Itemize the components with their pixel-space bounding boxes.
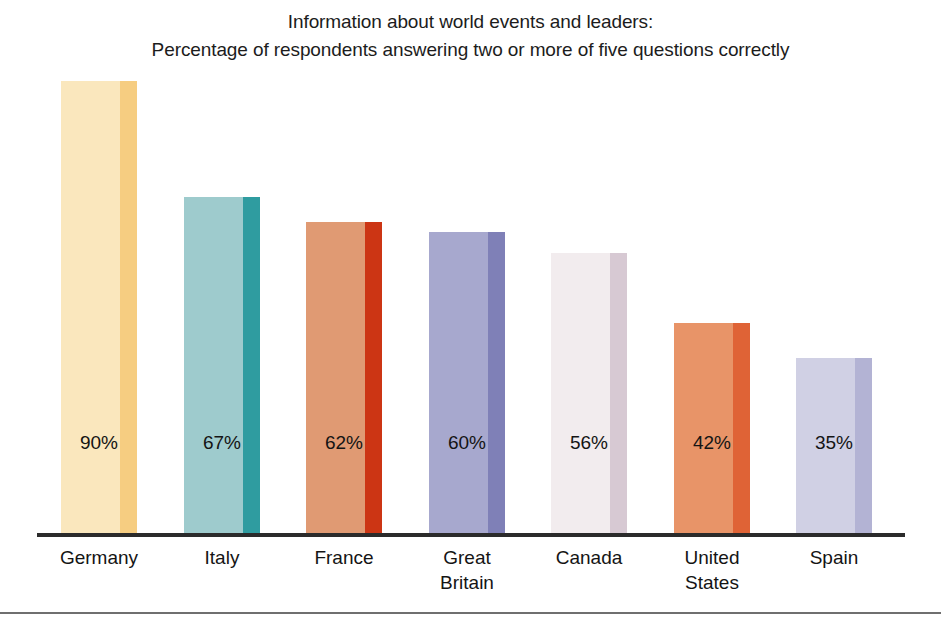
bar-italy: 67% [184,197,260,535]
bar-highlight-edge [733,323,750,535]
category-label-united-states: UnitedStates [652,545,772,595]
category-label-line-1: Italy [162,545,282,570]
bar-france: 62% [306,222,382,535]
bar-canada: 56% [551,253,627,535]
bar-united-states: 42% [674,323,750,535]
bar-value-label: 62% [306,432,382,454]
category-label-line-1: Canada [529,545,649,570]
bar-germany: 90% [61,81,137,535]
bar-value-label: 42% [674,432,750,454]
category-label-canada: Canada [529,545,649,570]
bar-value-label: 35% [796,432,872,454]
bar-spain: 35% [796,358,872,535]
category-label-line-1: United [652,545,772,570]
footer-divider [0,612,941,614]
plot-area: 90%Germany67%Italy62%France60%GreatBrita… [0,0,941,633]
bar-value-label: 90% [61,432,137,454]
bar-highlight-edge [120,81,137,535]
category-label-line-1: France [284,545,404,570]
category-label-france: France [284,545,404,570]
category-label-italy: Italy [162,545,282,570]
category-label-line-1: Germany [39,545,159,570]
bar-value-label: 56% [551,432,627,454]
x-axis-line [37,533,905,537]
category-label-great-britain: GreatBritain [407,545,527,595]
category-label-line-1: Great [407,545,527,570]
category-label-germany: Germany [39,545,159,570]
bar-value-label: 60% [429,432,505,454]
chart-page: Information about world events and leade… [0,0,941,633]
category-label-line-1: Spain [774,545,894,570]
bar-highlight-edge [610,253,627,535]
bar-highlight-edge [243,197,260,535]
category-label-spain: Spain [774,545,894,570]
bar-highlight-edge [488,232,505,535]
bar-value-label: 67% [184,432,260,454]
bar-highlight-edge [365,222,382,535]
bar-great-britain: 60% [429,232,505,535]
category-label-line-2: States [652,570,772,595]
category-label-line-2: Britain [407,570,527,595]
